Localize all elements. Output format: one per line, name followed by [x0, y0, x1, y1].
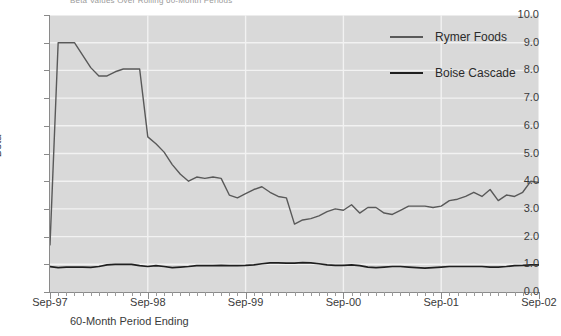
legend-item-rymer-foods[interactable]: Rymer Foods: [390, 26, 516, 48]
x-tick-minor: [376, 292, 377, 296]
y-tick-label: 2.0: [493, 230, 539, 242]
x-tick-label: Sep-02: [509, 296, 561, 308]
legend-swatch-boise-cascade: [390, 72, 423, 74]
x-tick-minor: [278, 292, 279, 296]
chart-legend: Rymer Foods Boise Cascade: [390, 26, 516, 98]
x-tick-minor: [205, 292, 206, 296]
x-axis-title: 60-Month Period Ending: [70, 315, 189, 327]
y-axis-title: Beta: [0, 135, 3, 158]
x-tick-minor: [474, 292, 475, 296]
x-tick-minor: [490, 292, 491, 296]
y-tick-mark: [44, 98, 49, 99]
x-tick-label: Sep-97: [20, 296, 80, 308]
x-tick-label: Sep-00: [313, 296, 373, 308]
x-tick-label: Sep-01: [411, 296, 471, 308]
x-tick-minor: [99, 292, 100, 296]
y-axis-line: [49, 15, 50, 292]
x-tick-minor: [115, 292, 116, 296]
y-tick-label: 1.0: [493, 257, 539, 269]
x-tick-minor: [311, 292, 312, 296]
legend-label-rymer-foods: Rymer Foods: [435, 30, 507, 44]
x-tick-minor: [400, 292, 401, 296]
x-tick-minor: [213, 292, 214, 296]
y-tick-mark: [44, 15, 49, 16]
legend-label-boise-cascade: Boise Cascade: [435, 66, 516, 80]
x-tick-minor: [392, 292, 393, 296]
y-tick-mark: [44, 292, 49, 293]
x-tick-minor: [384, 292, 385, 296]
y-tick-mark: [44, 209, 49, 210]
x-tick-minor: [506, 292, 507, 296]
y-tick-mark: [44, 181, 49, 182]
x-tick-label: Sep-99: [216, 296, 276, 308]
x-tick-minor: [482, 292, 483, 296]
chart-title: Beta Values Over Rolling 60-Month Period…: [70, 0, 232, 5]
y-tick-mark: [44, 70, 49, 71]
x-tick-minor: [107, 292, 108, 296]
x-tick-minor: [303, 292, 304, 296]
y-tick-label: 10.0: [493, 8, 539, 20]
y-tick-label: 5.0: [493, 147, 539, 159]
y-tick-mark: [44, 154, 49, 155]
x-tick-minor: [409, 292, 410, 296]
x-tick-label: Sep-98: [118, 296, 178, 308]
y-tick-label: 4.0: [493, 174, 539, 186]
legend-swatch-rymer-foods: [390, 36, 423, 38]
x-tick-minor: [189, 292, 190, 296]
y-tick-label: 3.0: [493, 202, 539, 214]
x-tick-minor: [83, 292, 84, 296]
x-tick-minor: [295, 292, 296, 296]
x-tick-minor: [286, 292, 287, 296]
series-line-boise-cascade: [50, 263, 539, 269]
y-tick-mark: [44, 237, 49, 238]
x-tick-minor: [91, 292, 92, 296]
x-tick-minor: [498, 292, 499, 296]
y-tick-label: 6.0: [493, 119, 539, 131]
y-tick-mark: [44, 126, 49, 127]
x-tick-minor: [180, 292, 181, 296]
legend-item-boise-cascade[interactable]: Boise Cascade: [390, 62, 516, 84]
y-tick-mark: [44, 43, 49, 44]
x-tick-minor: [197, 292, 198, 296]
y-tick-mark: [44, 264, 49, 265]
